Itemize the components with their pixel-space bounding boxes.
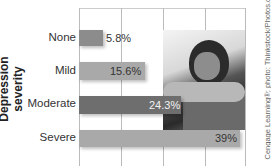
image-credit: Cengage Learning®; photo: Thinkstock/Pho…: [263, 0, 272, 160]
value-label-moderate: 24.3%: [149, 99, 180, 111]
gridline-40: [245, 8, 246, 166]
y-axis-label: Depression severity: [0, 34, 25, 144]
value-label-severe: 39%: [215, 132, 237, 144]
bar-none: [79, 30, 103, 46]
plot-frame-top: [79, 8, 245, 9]
category-label-severe: Severe: [40, 131, 76, 143]
category-label-none: None: [49, 31, 77, 43]
value-label-mild: 15.6%: [110, 65, 141, 77]
category-label-mild: Mild: [55, 64, 76, 76]
photo-face: [194, 52, 220, 80]
photo-depressed-woman: [163, 30, 245, 130]
category-label-moderate: Moderate: [27, 97, 76, 109]
value-label-none: 5.8%: [106, 32, 131, 44]
